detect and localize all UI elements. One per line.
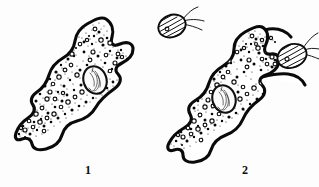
biology-figure: 1 2	[0, 0, 319, 187]
figure-label-2: 2	[233, 164, 257, 176]
figure-illustration	[0, 0, 319, 187]
figure-label-1: 1	[76, 164, 100, 176]
